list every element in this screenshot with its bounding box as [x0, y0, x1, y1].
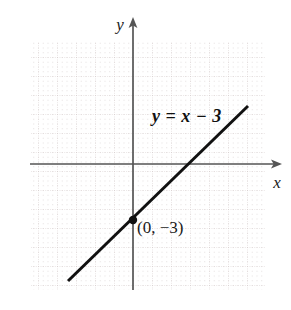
- point-coordinate-label: (0, −3): [137, 218, 183, 237]
- point-marker-0-minus-3: [129, 216, 137, 224]
- x-axis-label: x: [272, 173, 281, 192]
- marked-point: [129, 216, 137, 224]
- coordinate-plane-svg: y x y = x − 3 (0, −3): [0, 0, 291, 310]
- y-axis-label: y: [114, 15, 124, 34]
- background-grid: [30, 42, 265, 290]
- graph-figure: y x y = x − 3 (0, −3): [0, 0, 291, 310]
- grid-area: [30, 42, 265, 290]
- equation-label: y = x − 3: [150, 106, 222, 126]
